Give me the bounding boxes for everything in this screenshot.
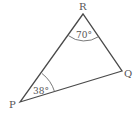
- vertex-label-q: Q: [124, 68, 132, 79]
- triangle-diagram: R Q P 70° 38°: [0, 0, 138, 130]
- angle-label-p: 38°: [33, 86, 49, 96]
- angle-label-r: 70°: [76, 30, 92, 40]
- triangle-svg: R Q P 70° 38°: [0, 0, 138, 130]
- vertex-label-p: P: [9, 99, 16, 110]
- vertex-label-r: R: [79, 1, 87, 12]
